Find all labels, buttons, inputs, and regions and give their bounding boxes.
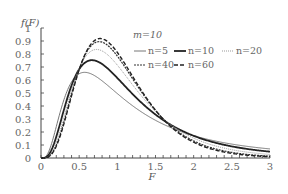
y-tick-label: 0.7 bbox=[15, 62, 31, 73]
y-tick-label: 0.6 bbox=[15, 75, 31, 86]
legend-label: n=20 bbox=[236, 45, 262, 56]
legend-title: m=10 bbox=[133, 29, 162, 40]
y-tick-label: 0.8 bbox=[15, 49, 31, 60]
x-tick-label: 2 bbox=[190, 161, 196, 172]
y-tick-label: 0 bbox=[25, 153, 31, 164]
y-tick-label: 0.1 bbox=[15, 140, 31, 151]
legend-label: n=60 bbox=[188, 59, 214, 70]
legend-label: n=10 bbox=[188, 45, 214, 56]
y-tick-label: 0.5 bbox=[15, 88, 31, 99]
legend: m=10 n=5n=10n=20n=40n=60 bbox=[133, 29, 262, 70]
x-tick-label: 3 bbox=[267, 161, 273, 172]
f-distribution-chart: 00.511.522.5300.10.20.30.40.50.60.70.80.… bbox=[0, 0, 288, 194]
x-axis-title: F bbox=[148, 171, 157, 182]
curves bbox=[41, 39, 270, 158]
y-tick-label: 0.2 bbox=[15, 127, 31, 138]
y-tick-label: 0.4 bbox=[15, 101, 31, 112]
x-tick-label: 0 bbox=[38, 161, 44, 172]
curve-n-10 bbox=[41, 60, 270, 158]
legend-label: n=5 bbox=[148, 45, 168, 56]
x-tick-label: 0.5 bbox=[71, 161, 87, 172]
legend-label: n=40 bbox=[148, 59, 174, 70]
x-tick-label: 2.5 bbox=[224, 161, 240, 172]
y-axis-title: f(F) bbox=[20, 17, 40, 28]
y-tick-label: 0.3 bbox=[15, 114, 31, 125]
x-tick-label: 1 bbox=[114, 161, 120, 172]
y-tick-label: 0.9 bbox=[15, 36, 31, 47]
curve-n-60 bbox=[41, 39, 270, 158]
